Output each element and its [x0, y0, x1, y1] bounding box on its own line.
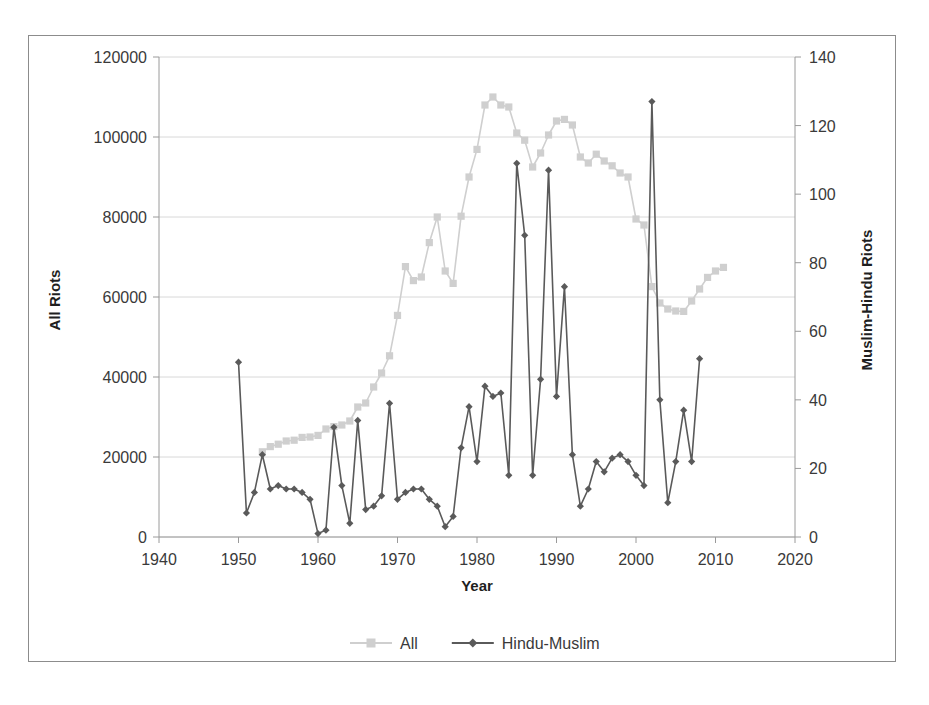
data-point-marker	[696, 355, 703, 362]
data-point-marker	[569, 121, 576, 128]
data-point-marker	[545, 167, 552, 174]
data-point-marker	[617, 169, 624, 176]
data-point-marker	[513, 129, 520, 136]
y-left-tick-label: 60000	[103, 289, 148, 306]
data-point-marker	[378, 369, 385, 376]
data-point-marker	[696, 285, 703, 292]
x-tick-label: 1990	[539, 551, 575, 568]
data-point-marker	[306, 433, 313, 440]
legend-label: All	[400, 635, 418, 652]
data-point-marker	[362, 506, 369, 513]
x-tick-label: 1980	[459, 551, 495, 568]
data-point-marker	[672, 307, 679, 314]
data-point-marker	[624, 173, 631, 180]
data-point-marker	[473, 458, 480, 465]
x-tick-label: 2020	[777, 551, 813, 568]
y-right-tick-label: 120	[809, 118, 836, 135]
data-point-marker	[720, 264, 727, 271]
data-point-marker	[497, 101, 504, 108]
data-point-marker	[442, 267, 449, 274]
data-point-marker	[481, 101, 488, 108]
data-point-marker	[561, 116, 568, 123]
x-axis-title: Year	[461, 577, 493, 594]
data-point-marker	[275, 441, 282, 448]
data-point-marker	[648, 283, 655, 290]
data-point-marker	[545, 131, 552, 138]
series-line	[239, 102, 700, 534]
y-left-tick-label: 0	[138, 529, 147, 546]
series-hindu-muslim	[235, 98, 703, 537]
data-point-marker	[688, 458, 695, 465]
data-point-marker	[640, 221, 647, 228]
data-point-marker	[648, 98, 655, 105]
data-point-marker	[251, 489, 258, 496]
data-point-marker	[458, 444, 465, 451]
x-tick-label: 2000	[618, 551, 654, 568]
data-point-marker	[386, 352, 393, 359]
legend-item-hindu-muslim[interactable]: Hindu-Muslim	[452, 635, 600, 652]
data-point-marker	[314, 432, 321, 439]
data-point-marker	[338, 482, 345, 489]
data-point-marker	[632, 215, 639, 222]
data-point-marker	[362, 399, 369, 406]
data-point-marker	[394, 312, 401, 319]
data-point-marker	[712, 267, 719, 274]
legend-item-all[interactable]: All	[350, 635, 418, 652]
data-point-marker	[704, 274, 711, 281]
data-point-marker	[410, 485, 417, 492]
data-point-marker	[458, 213, 465, 220]
data-point-marker	[426, 239, 433, 246]
data-point-marker	[346, 520, 353, 527]
data-point-marker	[275, 482, 282, 489]
y-right-tick-label: 100	[809, 186, 836, 203]
data-point-marker	[465, 403, 472, 410]
data-point-marker	[402, 263, 409, 270]
y-right-tick-label: 20	[809, 460, 827, 477]
y-left-tick-labels: 020000400006000080000100000120000	[94, 49, 147, 546]
data-point-marker	[680, 407, 687, 414]
data-point-marker	[322, 425, 329, 432]
y-right-tick-label: 60	[809, 323, 827, 340]
data-point-marker	[267, 485, 274, 492]
legend-label: Hindu-Muslim	[502, 635, 600, 652]
y-left-tick-label: 20000	[103, 449, 148, 466]
data-point-marker	[267, 443, 274, 450]
data-point-marker	[473, 146, 480, 153]
data-point-marker	[561, 283, 568, 290]
data-point-marker	[291, 485, 298, 492]
data-point-marker	[346, 417, 353, 424]
data-point-marker	[529, 472, 536, 479]
data-point-marker	[577, 503, 584, 510]
data-point-marker	[513, 160, 520, 167]
data-point-marker	[434, 213, 441, 220]
data-point-marker	[410, 277, 417, 284]
data-point-marker	[672, 458, 679, 465]
data-point-marker	[609, 455, 616, 462]
data-point-marker	[585, 485, 592, 492]
y-right-tick-label: 0	[809, 529, 818, 546]
y-left-tick-label: 40000	[103, 369, 148, 386]
data-point-marker	[521, 232, 528, 239]
data-point-marker	[243, 509, 250, 516]
y-left-tick-label: 80000	[103, 209, 148, 226]
data-point-marker	[283, 437, 290, 444]
data-point-marker	[299, 434, 306, 441]
data-point-marker	[367, 639, 376, 648]
x-tick-label: 2010	[698, 551, 734, 568]
data-point-marker	[370, 383, 377, 390]
data-point-marker	[553, 393, 560, 400]
data-point-marker	[688, 297, 695, 304]
data-point-marker	[283, 485, 290, 492]
data-point-marker	[577, 153, 584, 160]
y-right-tick-labels: 020406080100120140	[809, 49, 836, 546]
data-point-marker	[521, 137, 528, 144]
y-right-tick-label: 140	[809, 49, 836, 66]
y-left-axis-title: All Riots	[46, 270, 63, 331]
data-point-marker	[585, 159, 592, 166]
data-point-marker	[656, 396, 663, 403]
data-point-marker	[418, 273, 425, 280]
data-point-marker	[609, 162, 616, 169]
data-point-marker	[680, 308, 687, 315]
y-right-axis-title: Muslim-Hindu Riots	[858, 230, 875, 371]
data-point-marker	[450, 280, 457, 287]
